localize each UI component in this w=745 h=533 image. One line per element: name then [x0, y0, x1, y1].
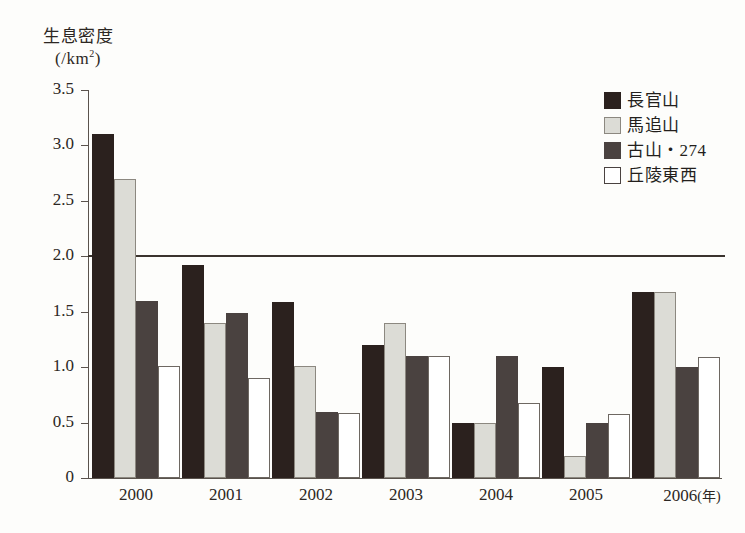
bar	[654, 292, 676, 478]
y-axis-tick	[81, 367, 88, 368]
bar	[294, 366, 316, 478]
bar-group	[362, 90, 450, 478]
bar	[586, 423, 608, 478]
y-axis-tick-label: 3.5	[6, 79, 74, 99]
bar	[136, 301, 158, 478]
bar	[496, 356, 518, 478]
bar	[92, 134, 114, 478]
x-axis-unit-label: (年)	[697, 489, 720, 504]
legend-item: 馬追山	[604, 113, 707, 138]
y-axis-unit-suffix: )	[95, 49, 101, 68]
bar	[362, 345, 384, 478]
bar-group	[452, 90, 540, 478]
bar	[452, 423, 474, 478]
y-axis-tick	[81, 90, 88, 91]
legend-swatch-icon	[604, 167, 621, 184]
bar	[114, 179, 136, 478]
bar	[406, 356, 428, 478]
bar	[226, 313, 248, 478]
bar	[182, 265, 204, 478]
legend-item-label: 古山・274	[627, 142, 707, 159]
x-axis-tick-label-text: 2003	[389, 485, 423, 504]
bar	[248, 378, 270, 478]
y-axis-unit-prefix: (/km	[55, 49, 89, 68]
bar-group	[182, 90, 270, 478]
x-axis-line	[88, 478, 722, 479]
y-axis-tick	[81, 312, 88, 313]
bar-group	[272, 90, 360, 478]
bar	[384, 323, 406, 478]
legend-item-label: 丘陵東西	[627, 167, 697, 184]
y-axis-tick-label: 1.5	[6, 301, 74, 321]
legend-swatch-icon	[604, 117, 621, 134]
legend-item-label: 長官山	[627, 92, 680, 109]
y-axis-tick	[81, 423, 88, 424]
bar	[428, 356, 450, 478]
bar	[676, 367, 698, 478]
x-axis-tick-label-text: 2000	[119, 485, 153, 504]
legend-item: 古山・274	[604, 138, 707, 163]
x-axis-tick-label-text: 2005	[569, 485, 603, 504]
y-axis-tick-label: 3.0	[6, 134, 74, 154]
bar	[542, 367, 564, 478]
bar	[272, 302, 294, 478]
y-axis-tick-label: 0.5	[6, 412, 74, 432]
y-axis-line	[88, 90, 89, 478]
bar	[698, 357, 720, 478]
x-axis-tick-label-text: 2006	[663, 486, 697, 505]
y-axis-title-line2: (/km2)	[18, 48, 138, 70]
legend-swatch-icon	[604, 92, 621, 109]
legend-item: 丘陵東西	[604, 163, 707, 188]
x-axis-tick-label-text: 2001	[209, 485, 243, 504]
bar-group	[92, 90, 180, 478]
y-axis-tick	[81, 145, 88, 146]
y-axis-tick-label: 2.0	[6, 245, 74, 265]
legend-swatch-icon	[604, 142, 621, 159]
legend: 長官山馬追山古山・274丘陵東西	[604, 88, 707, 188]
y-axis-tick	[81, 201, 88, 202]
y-axis-tick	[81, 256, 88, 257]
y-axis-tick-label: 0	[6, 467, 74, 487]
legend-item: 長官山	[604, 88, 707, 113]
x-axis-tick-label-text: 2002	[299, 485, 333, 504]
bar	[204, 323, 226, 478]
y-axis-title: 生息密度 (/km2)	[18, 26, 138, 70]
bar	[608, 414, 630, 478]
x-axis-tick-label-text: 2004	[479, 485, 513, 504]
y-axis-tick-label: 1.0	[6, 356, 74, 376]
bar	[632, 292, 654, 478]
bar-chart: 生息密度 (/km2) 00.51.01.52.02.53.03.5200020…	[0, 0, 745, 533]
bar	[158, 366, 180, 478]
bar	[518, 403, 540, 478]
y-axis-tick	[81, 478, 88, 479]
x-axis-tick-label: 2006(年)	[628, 485, 745, 506]
bar	[474, 423, 496, 478]
bar	[316, 412, 338, 479]
bar	[564, 456, 586, 478]
y-axis-tick-label: 2.5	[6, 190, 74, 210]
legend-item-label: 馬追山	[627, 117, 680, 134]
bar	[338, 413, 360, 478]
y-axis-title-line1: 生息密度	[18, 26, 138, 48]
